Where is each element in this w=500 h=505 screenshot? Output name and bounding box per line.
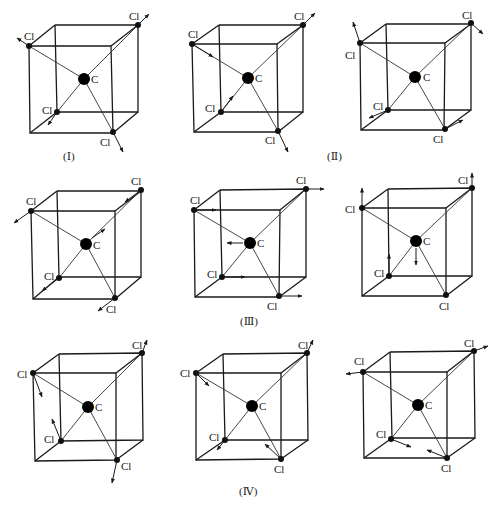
label-cl: Cl bbox=[24, 30, 34, 42]
label-cl: Cl bbox=[376, 428, 386, 440]
label-c: C bbox=[93, 239, 100, 251]
chlorine-atom bbox=[388, 436, 394, 442]
label-cl: Cl bbox=[100, 136, 110, 148]
label-c: C bbox=[423, 71, 430, 83]
label-cl: Cl bbox=[439, 300, 449, 312]
chlorine-atom bbox=[218, 109, 224, 115]
label-c: C bbox=[423, 235, 430, 247]
label-c: C bbox=[259, 400, 266, 412]
chlorine-atom bbox=[56, 275, 62, 281]
label-c: C bbox=[257, 237, 264, 249]
chlorine-atom bbox=[278, 456, 284, 462]
label-cl: Cl bbox=[131, 175, 141, 187]
label-c: C bbox=[255, 72, 262, 84]
label-cl: Cl bbox=[209, 431, 219, 443]
label-cl: Cl bbox=[274, 463, 284, 475]
panel-r3c2-mode-IV: C Cl Cl Cl Cl (Ⅳ) bbox=[180, 339, 313, 498]
chlorine-atom bbox=[58, 438, 64, 444]
panel-r2c1-mode-III: C Cl Cl Cl Cl bbox=[14, 175, 144, 315]
label-cl: Cl bbox=[267, 300, 277, 312]
carbon-atom bbox=[242, 72, 254, 84]
carbon-atom bbox=[412, 399, 424, 411]
label-cl: Cl bbox=[374, 267, 384, 279]
chlorine-atom bbox=[112, 295, 118, 301]
chlorine-atom bbox=[189, 41, 195, 47]
label-cl: Cl bbox=[294, 10, 304, 22]
label-cl: Cl bbox=[296, 174, 306, 186]
label-cl: Cl bbox=[44, 270, 54, 282]
label-cl: Cl bbox=[180, 367, 190, 379]
label-cl: Cl bbox=[44, 433, 54, 445]
chlorine-atom bbox=[191, 207, 197, 213]
chlorine-atom bbox=[222, 437, 228, 443]
label-c: C bbox=[95, 401, 102, 413]
panel-r2c3-mode-III: C Cl Cl Cl Cl bbox=[345, 173, 475, 312]
chlorine-atom bbox=[276, 293, 282, 299]
group-label-IV: (Ⅳ) bbox=[239, 485, 258, 498]
label-cl: Cl bbox=[345, 203, 355, 215]
label-cl: Cl bbox=[462, 9, 472, 21]
ccl4-vibration-modes-figure: C Cl Cl Cl Cl (Ⅰ) bbox=[0, 0, 500, 505]
panel-r1c2-mode-II: C Cl Cl Cl Cl bbox=[188, 10, 315, 152]
label-cl: Cl bbox=[17, 368, 27, 380]
label-cl: Cl bbox=[205, 102, 215, 114]
group-label-II: (Ⅱ) bbox=[327, 150, 342, 163]
chlorine-atom bbox=[26, 43, 32, 49]
panel-r1c1-mode-I: C Cl Cl Cl Cl (Ⅰ) bbox=[17, 10, 149, 163]
chlorine-atom bbox=[386, 273, 392, 279]
label-cl: Cl bbox=[190, 194, 200, 206]
label-cl: Cl bbox=[433, 133, 443, 145]
chlorine-atom bbox=[219, 274, 225, 280]
label-cl: Cl bbox=[26, 195, 36, 207]
carbon-atom bbox=[410, 235, 422, 247]
label-c: C bbox=[425, 399, 432, 411]
panel-r2c2-mode-III: C Cl Cl Cl Cl (Ⅲ) bbox=[190, 174, 324, 328]
carbon-atom bbox=[246, 400, 258, 412]
label-cl: Cl bbox=[42, 104, 52, 116]
chlorine-atom bbox=[442, 126, 448, 132]
label-cl: Cl bbox=[129, 10, 139, 22]
label-cl: Cl bbox=[345, 49, 355, 61]
displacement-arrows bbox=[192, 13, 315, 152]
chlorine-atom bbox=[360, 369, 366, 375]
carbon-atom bbox=[244, 237, 256, 249]
chlorine-atom bbox=[28, 208, 34, 214]
chlorine-atom bbox=[444, 455, 450, 461]
chlorine-atom bbox=[135, 22, 141, 28]
label-cl: Cl bbox=[441, 462, 451, 474]
chlorine-atom bbox=[357, 40, 363, 46]
group-label-III: (Ⅲ) bbox=[240, 315, 258, 328]
group-label-I: (Ⅰ) bbox=[63, 150, 75, 163]
chlorine-atom bbox=[138, 187, 144, 193]
chlorine-atom bbox=[385, 107, 391, 113]
carbon-atom bbox=[82, 401, 94, 413]
label-cl: Cl bbox=[121, 460, 131, 472]
chlorine-atom bbox=[275, 128, 281, 134]
chlorine-atom bbox=[193, 370, 199, 376]
label-cl: Cl bbox=[464, 337, 474, 349]
chlorine-atom bbox=[443, 292, 449, 298]
chlorine-atom bbox=[110, 129, 116, 135]
label-cl: Cl bbox=[373, 100, 383, 112]
chlorine-atom bbox=[359, 205, 365, 211]
chlorine-atom bbox=[114, 457, 120, 463]
label-cl: Cl bbox=[132, 339, 142, 351]
chlorine-atom bbox=[303, 186, 309, 192]
panel-r3c3-mode-IV: C Cl Cl Cl Cl bbox=[346, 337, 488, 474]
label-cl: Cl bbox=[265, 134, 275, 146]
label-cl: Cl bbox=[458, 174, 468, 186]
chlorine-atom bbox=[469, 185, 475, 191]
carbon-atom bbox=[80, 238, 92, 250]
label-cl: Cl bbox=[207, 268, 217, 280]
chlorine-atom bbox=[30, 370, 36, 376]
panel-r1c3-mode-II: C Cl Cl Cl Cl (Ⅱ) bbox=[327, 9, 483, 163]
label-cl: Cl bbox=[188, 28, 198, 40]
panel-r3c1-mode-IV: C Cl Cl Cl Cl bbox=[17, 339, 147, 483]
label-c: C bbox=[91, 73, 98, 85]
label-cl: Cl bbox=[354, 355, 364, 367]
carbon-atom bbox=[409, 71, 421, 83]
label-cl: Cl bbox=[298, 339, 308, 351]
label-cl: Cl bbox=[106, 303, 116, 315]
chlorine-atom bbox=[300, 22, 306, 28]
chlorine-atom bbox=[54, 109, 60, 115]
